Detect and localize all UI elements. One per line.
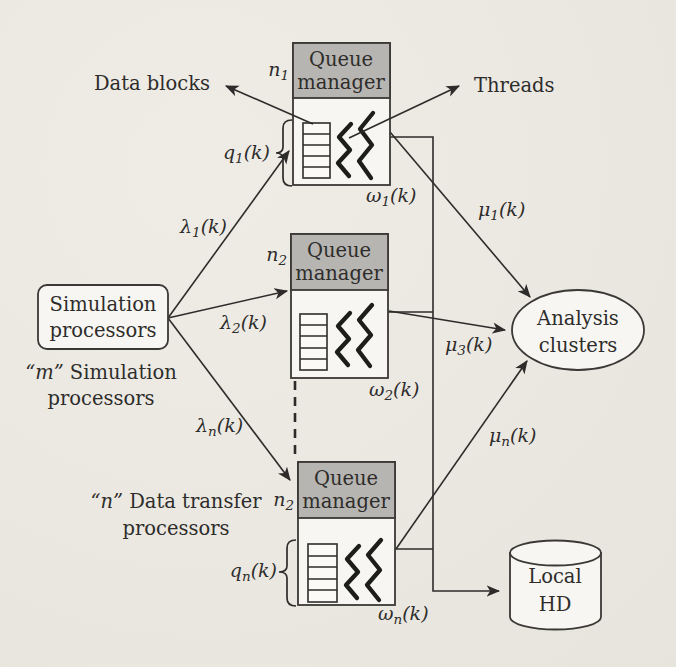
m-caption-line2: processors (47, 387, 154, 410)
local-hd-cylinder-top (510, 541, 601, 566)
queue-manager-2-title-line1: Queue (307, 239, 371, 262)
lambdan-label: λn(k) (195, 414, 243, 439)
queue-2-stack (300, 314, 327, 370)
queue-manager-1-title-line1: Queue (309, 48, 373, 71)
local-hd-label-line2: HD (539, 593, 572, 616)
analysis-clusters-label-line2: clusters (539, 334, 617, 357)
local-hd-label-line1: Local (528, 565, 581, 588)
queue-manager-2-title-line2: manager (295, 262, 383, 285)
queue-1-stack (303, 123, 330, 178)
queue-manager-1-title-line2: manager (297, 71, 385, 94)
mu3-label: μ3(k) (445, 333, 492, 358)
analysis-clusters-ellipse (512, 290, 644, 370)
q1-label: q1(k) (223, 141, 270, 166)
node-analysis-clusters: Analysis clusters (512, 290, 644, 370)
node-queue-manager-2: Queue manager n2 ω2(k) (266, 234, 419, 403)
simulation-processors-label-line2: processors (49, 319, 156, 342)
qn-brace (279, 540, 296, 606)
n1-label: n1 (268, 58, 289, 83)
simulation-processors-label-line1: Simulation (50, 293, 157, 316)
omega1-label: ω1(k) (366, 184, 416, 209)
n-caption-line1: “n” Data transfer (90, 490, 262, 513)
queue-manager-3-title-line2: manager (302, 490, 390, 513)
node-queue-manager-1: Queue manager n1 ω1(k) q1(k) (223, 43, 417, 209)
omega2-label: ω2(k) (369, 378, 419, 403)
qn-label: qn(k) (230, 559, 277, 584)
arrow-lambdan (168, 318, 290, 480)
analysis-clusters-label-line1: Analysis (536, 307, 619, 330)
scanned-figure-page: Simulation processors “m” Simulation pro… (0, 0, 676, 667)
lambda2-label: λ2(k) (219, 311, 267, 336)
n2-label: n2 (266, 243, 287, 268)
omegan-label: ωn(k) (378, 602, 429, 627)
queue-3-stack (308, 544, 337, 602)
lambda1-label: λ1(k) (179, 215, 227, 240)
n-caption-line2: processors (122, 517, 229, 540)
mu1-label: μ1(k) (478, 198, 525, 223)
n3-label: n2 (273, 488, 294, 513)
arrow-mu3 (389, 311, 505, 330)
threads-label: Threads (474, 74, 555, 97)
queueing-diagram: Simulation processors “m” Simulation pro… (0, 0, 676, 667)
data-blocks-label: Data blocks (94, 72, 210, 95)
mun-label: μn(k) (489, 424, 536, 449)
m-caption-line1: “m” Simulation (25, 361, 177, 384)
queue-manager-3-title-line1: Queue (314, 467, 378, 490)
node-local-hd: Local HD (510, 541, 601, 630)
q1-brace (276, 120, 292, 186)
